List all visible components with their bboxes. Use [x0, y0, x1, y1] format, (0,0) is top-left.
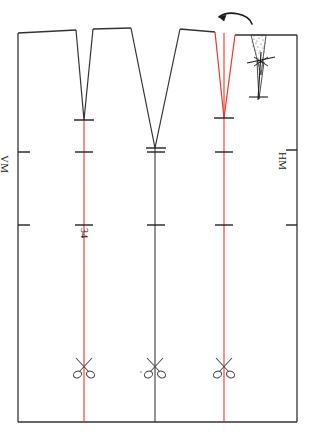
scissors-blade-a — [216, 358, 229, 372]
scissors-blade-b — [79, 358, 92, 372]
scissors-handle-a — [72, 370, 82, 379]
scissors-handle-b — [225, 370, 235, 379]
folded-dart-shaded — [251, 35, 266, 75]
dart-middle — [131, 28, 180, 148]
dart-left-leg-b — [84, 29, 93, 120]
dart-right-leg-a — [215, 32, 224, 118]
scissors-middle-dot — [140, 371, 142, 373]
label-size: 34 — [79, 228, 90, 239]
scissors-blade-a — [147, 358, 160, 372]
curved-arrow-icon — [219, 13, 252, 24]
dart-left-leg-a — [76, 30, 84, 120]
dart-left — [76, 29, 93, 120]
pin-cross-icon — [247, 52, 275, 100]
waist-seg-1 — [18, 30, 76, 33]
scissors-blade-b — [219, 358, 232, 372]
dart-middle-leg-b — [155, 29, 180, 148]
label-center-front: VM — [0, 155, 11, 173]
scissors-handle-a — [212, 370, 222, 379]
pattern-drawing — [0, 0, 320, 445]
dart-right-leg-b — [224, 35, 235, 118]
waist-seg-3 — [180, 29, 215, 32]
pattern-sheet: VM HM 34 — [0, 0, 320, 445]
scissors-handle-b — [85, 370, 95, 379]
waist-seg-2 — [93, 28, 131, 29]
scissors-blade-a — [76, 358, 89, 372]
dart-right — [215, 32, 235, 118]
scissors-blade-b — [150, 358, 163, 372]
dart-middle-leg-a — [131, 28, 155, 148]
panel-waist-edge — [18, 28, 297, 35]
scissors-handle-a — [143, 370, 153, 379]
scissors-icon-middle — [140, 358, 166, 379]
scissors-handle-b — [156, 370, 166, 379]
label-center-back: HM — [277, 152, 289, 170]
vertical-lines — [84, 33, 224, 422]
